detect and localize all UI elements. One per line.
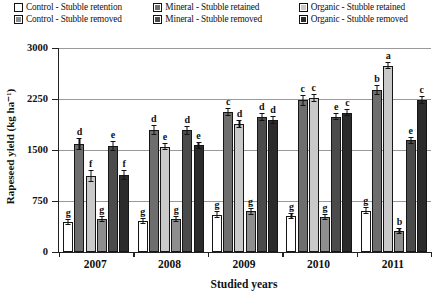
significance-letter: b	[397, 217, 403, 227]
significance-letter: d	[77, 127, 83, 137]
significance-letter: g	[66, 208, 71, 218]
error-bar	[300, 95, 305, 106]
error-bar	[323, 214, 328, 220]
bar-slot: g	[246, 48, 256, 252]
bar[interactable]	[160, 147, 170, 252]
significance-letter: g	[174, 205, 179, 215]
bar-slot: g	[320, 48, 330, 252]
bar-slot: g	[171, 48, 181, 252]
x-axis-tick	[357, 252, 358, 257]
bar[interactable]	[108, 146, 118, 252]
x-axis-tick	[282, 252, 283, 257]
legend-item[interactable]: Mineral - Stubble removed	[153, 14, 298, 25]
bar-group-2011: gbabec	[357, 48, 431, 252]
bar[interactable]	[320, 217, 330, 252]
bar-slot: c	[298, 48, 308, 252]
bar[interactable]	[119, 175, 129, 252]
y-axis-tick-label: 2250	[14, 94, 48, 104]
bar[interactable]	[372, 90, 382, 252]
significance-letter: d	[151, 114, 157, 124]
significance-letter: f	[123, 159, 126, 169]
bar-slot: g	[97, 48, 107, 252]
bar[interactable]	[417, 100, 427, 252]
legend-item[interactable]: Organic - Stubble retained	[299, 2, 438, 13]
bar-slot: c	[223, 48, 233, 252]
bar[interactable]	[74, 144, 84, 252]
error-bar	[77, 138, 82, 150]
significance-letter: a	[386, 51, 391, 61]
bar[interactable]	[194, 145, 204, 252]
bar[interactable]	[394, 231, 404, 252]
x-axis-category-label: 2011	[356, 258, 430, 274]
bar[interactable]	[361, 211, 371, 252]
bar[interactable]	[342, 113, 352, 252]
significance-letter: e	[334, 102, 338, 112]
significance-letter: d	[270, 105, 276, 115]
significance-letter: g	[248, 197, 253, 207]
legend-item-label: Mineral - Stubble removed	[165, 14, 262, 25]
y-axis-tick-label: 3000	[14, 43, 48, 53]
bar-slot: c	[417, 48, 427, 252]
bar[interactable]	[182, 130, 192, 252]
bar[interactable]	[149, 130, 159, 252]
bar[interactable]	[331, 117, 341, 252]
error-bar	[110, 141, 115, 151]
bar-slot: d	[268, 48, 278, 252]
darkest-gray-square-icon	[299, 15, 308, 24]
bar[interactable]	[286, 216, 296, 252]
error-bar	[140, 218, 145, 224]
bar-slot: e	[331, 48, 341, 252]
bar[interactable]	[86, 176, 96, 252]
bar[interactable]	[309, 98, 319, 252]
bar-slot: c	[342, 48, 352, 252]
error-bar	[386, 62, 391, 69]
bar[interactable]	[97, 219, 107, 252]
legend-row: Control - Stubble retentionMineral - Stu…	[14, 2, 438, 13]
significance-letter: e	[196, 131, 200, 141]
error-bar	[345, 109, 350, 116]
x-axis-category-labels: 20072008200920102011	[58, 258, 430, 274]
legend-item[interactable]: Control - Stubble removed	[14, 14, 153, 25]
legend-item[interactable]: Mineral - Stubble retained	[153, 2, 298, 13]
bar[interactable]	[63, 222, 73, 252]
bar[interactable]	[171, 219, 181, 252]
error-bar	[226, 108, 231, 117]
error-bar	[363, 207, 368, 214]
error-bar	[248, 208, 253, 215]
bar-slot: f	[119, 48, 129, 252]
legend-item[interactable]: Organic - Stubble removed	[299, 14, 438, 25]
y-axis-tick-label: 1500	[14, 145, 48, 155]
legend-item[interactable]: Control - Stubble retention	[14, 2, 153, 13]
y-axis-tick-label: 0	[14, 247, 48, 257]
chart-legend: Control - Stubble retentionMineral - Stu…	[14, 2, 438, 25]
bar-slot: d	[182, 48, 192, 252]
bar[interactable]	[234, 124, 244, 252]
x-axis-category-label: 2008	[132, 258, 206, 274]
bar[interactable]	[223, 112, 233, 252]
bar[interactable]	[298, 100, 308, 252]
bar-slot: g	[212, 48, 222, 252]
x-axis-category-label: 2007	[58, 258, 132, 274]
error-bar	[122, 170, 127, 180]
bar[interactable]	[383, 66, 393, 252]
bar-slot: b	[372, 48, 382, 252]
x-axis-tick	[431, 252, 432, 257]
bar-group-2010: gccgec	[282, 48, 356, 252]
x-axis-category-label: 2010	[281, 258, 355, 274]
error-bar	[196, 142, 201, 149]
light-gray-square-icon	[299, 3, 308, 12]
y-axis-tick	[52, 150, 59, 151]
bar-slot: e	[406, 48, 416, 252]
significance-letter: g	[140, 207, 145, 217]
bar[interactable]	[246, 211, 256, 252]
error-bar	[215, 211, 220, 218]
error-bar	[237, 120, 242, 128]
bar[interactable]	[257, 117, 267, 252]
significance-letter: c	[312, 83, 316, 93]
significance-letter: g	[289, 202, 294, 212]
medium-gray-square-icon	[14, 15, 23, 24]
bar[interactable]	[406, 140, 416, 252]
bar[interactable]	[212, 215, 222, 252]
bar[interactable]	[138, 221, 148, 252]
bar[interactable]	[268, 120, 278, 252]
